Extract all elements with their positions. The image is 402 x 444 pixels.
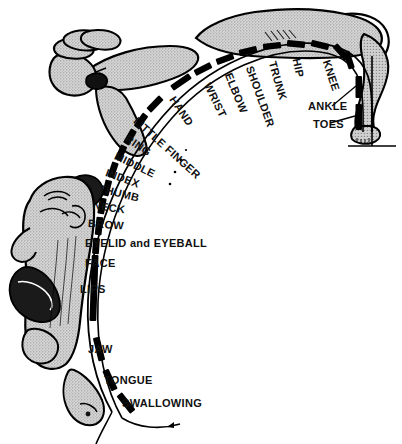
- homunculus-trunk: [196, 9, 389, 58]
- homunculus-hand: [50, 30, 199, 156]
- arc-dash-markers: [89, 40, 362, 414]
- diagram-canvas: [0, 0, 402, 444]
- arc-label-ankle: ANKLE: [308, 101, 347, 112]
- arc-label-jaw: JAW: [88, 344, 113, 355]
- arc-label-lips: LIPS: [80, 284, 106, 295]
- arc-label-toes: TOES: [313, 119, 344, 130]
- arc-label-eyelid-eyeball: EYELID and EYEBALL: [85, 238, 207, 249]
- arc-label-swallowing: SWALLOWING: [122, 398, 202, 409]
- arc-label-tongue: TONGUE: [104, 375, 153, 386]
- homunculus-diagram: TOES ANKLE KNEE HIP TRUNK SHOULDER ELBOW…: [0, 0, 402, 444]
- arc-label-face: FACE: [85, 258, 116, 269]
